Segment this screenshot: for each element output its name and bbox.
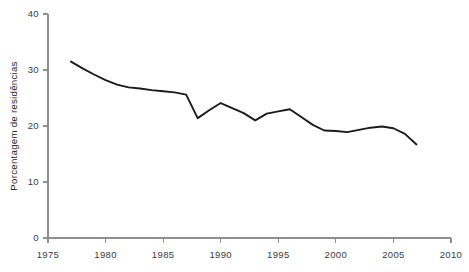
x-tick-label: 2005: [382, 249, 405, 260]
chart-container: 010203040 197519801985199019952000200520…: [0, 0, 469, 272]
y-axis-ticks: [43, 14, 48, 238]
x-axis-tick-labels: 19751980198519901995200020052010: [37, 249, 463, 260]
x-tick-label: 1985: [152, 249, 175, 260]
x-tick-label: 2000: [325, 249, 348, 260]
y-tick-label: 30: [28, 64, 39, 75]
x-tick-label: 1975: [37, 249, 60, 260]
y-tick-label: 20: [28, 120, 39, 131]
x-axis-ticks: [48, 238, 451, 243]
y-axis-title: Porcentagem de residências: [8, 61, 19, 190]
axes: [48, 14, 451, 238]
y-axis-tick-labels: 010203040: [28, 8, 39, 243]
y-tick-label: 0: [33, 232, 39, 243]
x-tick-label: 1995: [267, 249, 290, 260]
line-chart: 010203040 197519801985199019952000200520…: [0, 0, 469, 272]
y-tick-label: 10: [28, 176, 39, 187]
y-tick-label: 40: [28, 8, 39, 19]
data-series-line: [71, 62, 416, 145]
x-tick-label: 1980: [94, 249, 117, 260]
x-tick-label: 1990: [209, 249, 232, 260]
x-tick-label: 2010: [440, 249, 463, 260]
